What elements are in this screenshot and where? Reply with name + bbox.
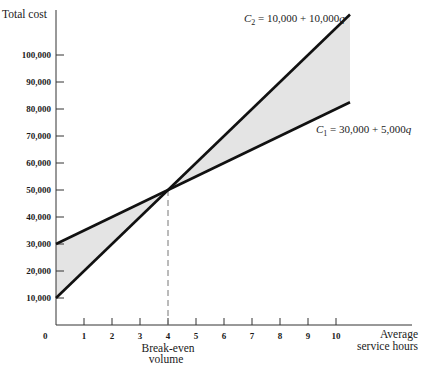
y-tick-label: 100,000	[22, 50, 52, 60]
x-tick-label: 10	[332, 331, 342, 341]
x-tick-label: 2	[110, 331, 115, 341]
x-tick-label: 4	[166, 331, 171, 341]
x-axis-title-line2: service hours	[357, 340, 419, 352]
series-line-c2	[56, 15, 350, 299]
x-axis-ticks: 12345678910	[82, 318, 341, 341]
y-tick-label: 90,000	[26, 77, 51, 87]
x-tick-label: 6	[222, 331, 227, 341]
x-tick-label: 9	[306, 331, 311, 341]
x-tick-label: 5	[194, 331, 199, 341]
y-tick-label: 60,000	[26, 158, 51, 168]
equation-label-c1: C1 = 30,000 + 5,000q	[316, 123, 412, 138]
y-tick-label: 80,000	[26, 104, 51, 114]
y-tick-label: 50,000	[26, 185, 51, 195]
y-tick-label: 20,000	[26, 266, 51, 276]
x-tick-label: 7	[250, 331, 255, 341]
origin-label: 0	[43, 331, 48, 341]
y-tick-label: 30,000	[26, 239, 51, 249]
y-tick-label: 40,000	[26, 212, 51, 222]
x-tick-label: 1	[82, 331, 87, 341]
y-tick-label: 10,000	[26, 293, 51, 303]
series-line-c1	[56, 102, 350, 244]
x-tick-label: 8	[278, 331, 283, 341]
y-tick-label: 70,000	[26, 131, 51, 141]
break-even-label-line2: volume	[149, 353, 184, 365]
equation-label-c2: C2 = 10,000 + 10,000q	[244, 12, 345, 27]
break-even-chart: 10,00020,00030,00040,00050,00060,00070,0…	[0, 0, 427, 373]
x-tick-label: 3	[138, 331, 143, 341]
y-axis-title: Total cost	[2, 8, 48, 20]
